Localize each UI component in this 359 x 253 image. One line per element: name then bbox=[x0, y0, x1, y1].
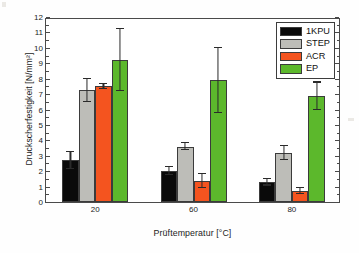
legend-swatch-icon bbox=[280, 39, 302, 49]
y-tick-mark bbox=[46, 63, 50, 64]
error-bar-ep-80 bbox=[316, 83, 317, 111]
error-cap-bottom bbox=[99, 88, 107, 89]
x-axis-title: Prüftemperatur [°C] bbox=[45, 228, 340, 238]
bar-acr-20 bbox=[95, 86, 112, 202]
y-tick-mark-right bbox=[335, 110, 339, 111]
y-tick-mark bbox=[46, 25, 49, 26]
error-cap-bottom bbox=[296, 193, 304, 194]
y-tick-mark-right bbox=[335, 79, 339, 80]
y-tick-mark bbox=[46, 56, 49, 57]
y-tick-mark bbox=[46, 163, 49, 164]
bar-step-20 bbox=[79, 90, 96, 202]
legend-item-acr[interactable]: ACR bbox=[280, 51, 330, 62]
error-cap-bottom bbox=[214, 112, 222, 113]
y-tick-label: 3 bbox=[39, 151, 43, 160]
x-tick-label: 60 bbox=[189, 205, 198, 214]
y-tick-mark-right bbox=[335, 17, 339, 18]
error-bar-step-80 bbox=[283, 146, 284, 160]
y-tick-mark bbox=[46, 179, 49, 180]
y-tick-mark bbox=[46, 110, 50, 111]
error-cap-bottom bbox=[83, 101, 91, 102]
y-tick-label: 11 bbox=[35, 28, 43, 37]
y-tick-mark-right bbox=[335, 48, 339, 49]
legend-item-1kpu[interactable]: 1KPU bbox=[280, 26, 330, 37]
error-cap-bottom bbox=[263, 184, 271, 185]
y-tick-mark-right bbox=[337, 56, 340, 57]
y-tick-mark-right bbox=[337, 25, 340, 26]
y-tick-mark bbox=[46, 156, 50, 157]
y-tick-mark bbox=[46, 71, 49, 72]
error-cap-top bbox=[198, 173, 206, 174]
error-cap-top bbox=[165, 166, 173, 167]
plot-inner: 0123456789101112 206080 1KPUSTEPACREP bbox=[46, 19, 339, 202]
y-tick-label: 9 bbox=[39, 59, 43, 68]
legend-label: EP bbox=[306, 64, 318, 73]
y-tick-label: 10 bbox=[34, 43, 43, 52]
scan-artifact bbox=[2, 2, 6, 7]
y-tick-label: 7 bbox=[39, 90, 43, 99]
error-cap-top bbox=[280, 145, 288, 146]
y-tick-mark bbox=[46, 32, 50, 33]
error-cap-top bbox=[83, 78, 91, 79]
legend-item-ep[interactable]: EP bbox=[280, 64, 330, 75]
error-cap-bottom bbox=[165, 174, 173, 175]
y-tick-mark bbox=[46, 133, 49, 134]
y-tick-mark-right bbox=[337, 71, 340, 72]
legend-swatch-icon bbox=[280, 64, 302, 74]
y-tick-mark-right bbox=[337, 179, 340, 180]
legend-item-step[interactable]: STEP bbox=[280, 39, 330, 50]
scan-artifact bbox=[348, 118, 354, 121]
error-cap-top bbox=[181, 142, 189, 143]
y-tick-label: 4 bbox=[39, 136, 43, 145]
y-tick-mark bbox=[46, 194, 49, 195]
y-tick-label: 2 bbox=[39, 167, 43, 176]
error-cap-bottom bbox=[181, 149, 189, 150]
bar-step-80 bbox=[275, 153, 292, 202]
y-tick-mark bbox=[46, 187, 50, 188]
y-tick-mark-right bbox=[337, 163, 340, 164]
y-tick-mark bbox=[46, 48, 50, 49]
error-cap-bottom bbox=[313, 109, 321, 110]
y-tick-mark-right bbox=[335, 171, 339, 172]
error-bar-step-20 bbox=[86, 79, 87, 102]
y-tick-mark bbox=[46, 102, 49, 103]
legend-label: ACR bbox=[306, 52, 325, 61]
error-cap-top bbox=[66, 151, 74, 152]
y-tick-mark-right bbox=[337, 148, 340, 149]
error-cap-top bbox=[214, 47, 222, 48]
error-cap-top bbox=[99, 83, 107, 84]
y-tick-mark bbox=[46, 202, 50, 203]
error-cap-top bbox=[116, 28, 124, 29]
y-tick-mark bbox=[46, 171, 50, 172]
y-tick-mark bbox=[46, 79, 50, 80]
y-tick-mark-right bbox=[335, 63, 339, 64]
y-tick-mark bbox=[46, 17, 50, 18]
y-tick-label: 5 bbox=[39, 120, 43, 129]
error-cap-bottom bbox=[280, 159, 288, 160]
error-cap-bottom bbox=[66, 168, 74, 169]
y-tick-mark-right bbox=[335, 156, 339, 157]
error-cap-bottom bbox=[198, 187, 206, 188]
error-cap-bottom bbox=[116, 90, 124, 91]
bar-ep-80 bbox=[308, 96, 325, 202]
y-tick-label: 12 bbox=[34, 13, 43, 22]
y-tick-mark bbox=[46, 140, 50, 141]
y-tick-label: 0 bbox=[39, 198, 43, 207]
chart-figure: Druckscherfestigkeit [N/mm²] Prüftempera… bbox=[0, 0, 359, 253]
error-cap-top bbox=[296, 187, 304, 188]
y-tick-mark-right bbox=[337, 40, 340, 41]
y-tick-mark bbox=[46, 117, 49, 118]
error-cap-top bbox=[313, 81, 321, 82]
plot-area: 0123456789101112 206080 1KPUSTEPACREP bbox=[45, 18, 340, 203]
y-tick-mark-right bbox=[335, 94, 339, 95]
y-tick-mark-right bbox=[337, 133, 340, 134]
y-tick-mark-right bbox=[335, 125, 339, 126]
y-tick-label: 1 bbox=[39, 182, 43, 191]
y-tick-mark bbox=[46, 86, 49, 87]
y-tick-mark-right bbox=[335, 32, 339, 33]
legend-swatch-icon bbox=[280, 52, 302, 62]
y-tick-label: 8 bbox=[39, 74, 43, 83]
y-tick-mark bbox=[46, 148, 49, 149]
chart-legend: 1KPUSTEPACREP bbox=[276, 22, 335, 79]
y-tick-mark-right bbox=[337, 194, 340, 195]
